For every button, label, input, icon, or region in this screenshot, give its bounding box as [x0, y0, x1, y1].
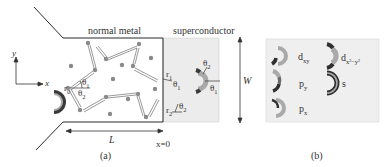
interface-theta2-label: θ2 [179, 102, 187, 113]
caption-b: (b) [311, 151, 323, 161]
sc-theta2-label: θ2 [203, 59, 211, 70]
s-label: s [342, 79, 346, 89]
width-arrow [238, 37, 242, 123]
superconductor-label: superconductor [173, 26, 235, 36]
y-axis-label: y [12, 49, 16, 58]
r1-label: r1 [166, 70, 172, 81]
sc-theta1-label: θ1 [210, 84, 218, 95]
impurity-dots [66, 41, 157, 119]
dxy-label: dxy [298, 52, 310, 65]
interface-position-label: x=0 [156, 140, 170, 149]
length-arrow [66, 129, 163, 133]
py-label: py [299, 79, 307, 92]
dx2-y2-label: dx²−y² [341, 53, 360, 66]
caption-a: (a) [100, 151, 111, 161]
interface-theta1-label: θ1 [173, 80, 181, 91]
x-axis-label: x [45, 79, 49, 88]
width-label: W [243, 76, 251, 86]
source-pair-icon [54, 92, 64, 112]
r2-label: r2 [166, 106, 172, 117]
r0-theta1-label: θ1 [82, 78, 90, 89]
normal-metal-label: normal metal [88, 26, 141, 36]
px-label: px [299, 104, 307, 117]
coordinate-axes [14, 57, 43, 86]
r0-theta2-label: θ2 [78, 89, 86, 100]
length-label: L [109, 135, 115, 145]
r0-label: r0 [64, 84, 70, 95]
